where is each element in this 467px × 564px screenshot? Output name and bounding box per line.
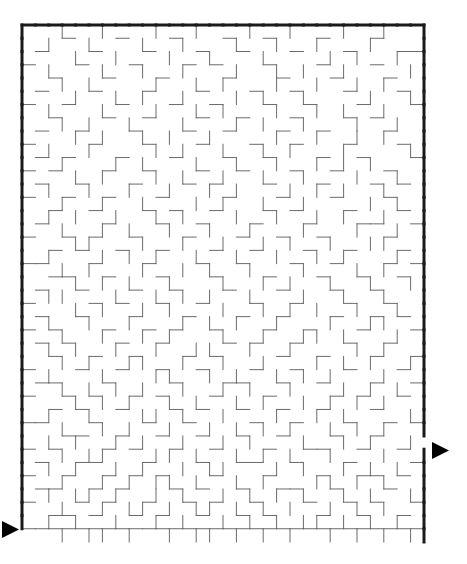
page-background (0, 0, 467, 564)
maze-canvas (0, 0, 467, 564)
maze-figure (0, 0, 467, 564)
